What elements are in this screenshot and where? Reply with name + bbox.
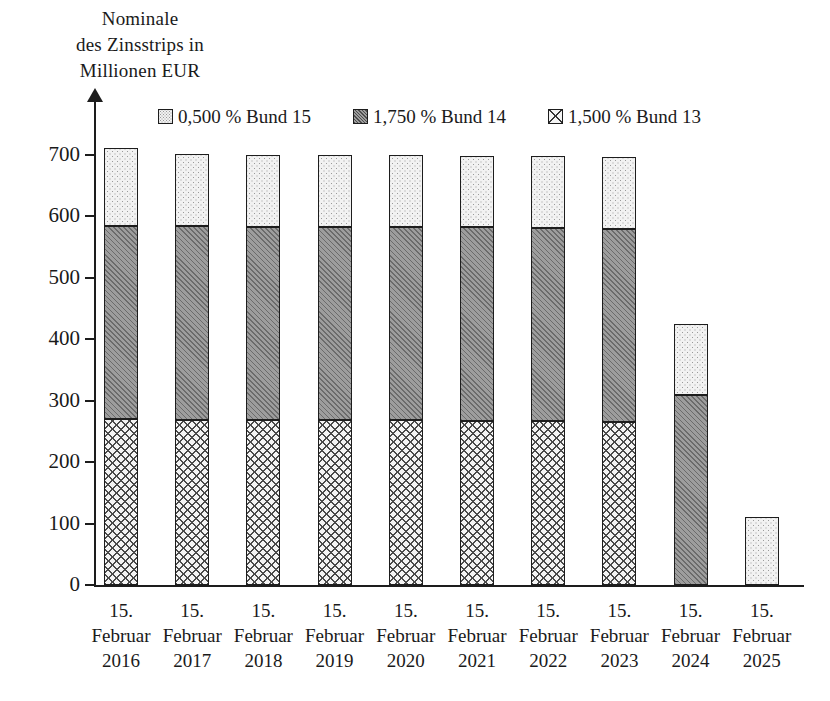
bar-segment xyxy=(175,226,209,420)
bar-segment xyxy=(175,420,209,585)
bar-segment xyxy=(602,229,636,422)
legend-swatch-diagonal-icon xyxy=(353,109,368,124)
y-axis-tick xyxy=(85,215,95,217)
bar-segment xyxy=(674,395,708,585)
bar-segment xyxy=(175,154,209,226)
y-axis-tick xyxy=(85,338,95,340)
legend-item-bund-15[interactable]: 0,500 % Bund 15 xyxy=(158,107,311,126)
bar-segment xyxy=(460,156,494,228)
legend-label-bund-14: 1,750 % Bund 14 xyxy=(373,107,506,126)
legend-item-bund-14[interactable]: 1,750 % Bund 14 xyxy=(353,107,506,126)
y-axis-tick-label: 100 xyxy=(12,513,80,534)
bar-segment xyxy=(104,226,138,420)
x-axis-label-line: Februar xyxy=(717,623,807,648)
stacked-bar-chart: Nominale des Zinsstrips in Millionen EUR… xyxy=(0,0,830,701)
bar-segment xyxy=(104,419,138,585)
legend-swatch-cross-icon xyxy=(548,109,563,124)
bar-segment xyxy=(246,155,280,227)
y-axis-tick xyxy=(85,461,95,463)
bar-segment xyxy=(531,156,565,228)
bar-segment xyxy=(602,422,636,585)
legend-item-bund-13[interactable]: 1,500 % Bund 13 xyxy=(548,107,701,126)
x-axis-label-line: 15. xyxy=(717,598,807,623)
bar-segment xyxy=(674,324,708,395)
legend-label-bund-15: 0,500 % Bund 15 xyxy=(178,107,311,126)
bar-segment xyxy=(389,420,423,585)
bar-segment xyxy=(246,420,280,585)
x-axis-line xyxy=(94,585,804,587)
y-axis-tick xyxy=(85,400,95,402)
plot-area: 0,500 % Bund 15 1,750 % Bund 14 1,500 % … xyxy=(0,0,830,701)
bar-segment xyxy=(531,228,565,421)
bar-segment xyxy=(104,148,138,226)
bar-segment xyxy=(246,227,280,421)
bar-segment xyxy=(460,421,494,585)
bar-segment xyxy=(460,227,494,421)
bar-segment xyxy=(318,155,352,227)
y-axis-tick-label: 200 xyxy=(12,451,80,472)
y-axis-tick-label: 500 xyxy=(12,267,80,288)
bar-segment xyxy=(531,421,565,585)
y-axis-tick-label: 400 xyxy=(12,328,80,349)
y-axis-tick xyxy=(85,154,95,156)
legend-swatch-dotted-icon xyxy=(158,109,173,124)
legend: 0,500 % Bund 15 1,750 % Bund 14 1,500 % … xyxy=(158,107,701,126)
y-axis-tick-label: 300 xyxy=(12,390,80,411)
bar-segment xyxy=(602,157,636,229)
bar-segment xyxy=(745,517,779,585)
bar-segment xyxy=(318,420,352,585)
x-axis-label-line: 2025 xyxy=(717,648,807,673)
y-axis-tick-label: 600 xyxy=(12,205,80,226)
y-axis-tick-label: 0 xyxy=(12,574,80,595)
x-axis-label: 15.Februar2025 xyxy=(717,598,807,673)
y-axis-tick-label: 700 xyxy=(12,144,80,165)
y-axis-line xyxy=(94,98,96,586)
y-axis-tick xyxy=(85,523,95,525)
bar-segment xyxy=(318,227,352,421)
bar-segment xyxy=(389,227,423,421)
y-axis-tick xyxy=(85,277,95,279)
bar-segment xyxy=(389,155,423,227)
legend-label-bund-13: 1,500 % Bund 13 xyxy=(568,107,701,126)
y-axis-tick xyxy=(85,584,95,586)
